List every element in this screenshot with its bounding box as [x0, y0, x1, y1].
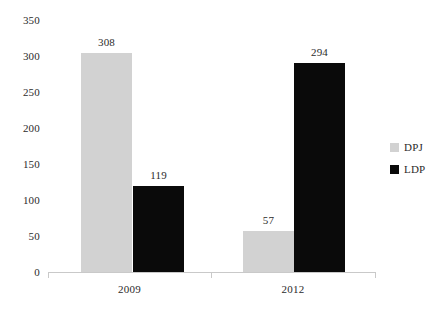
- legend-swatch-icon: [390, 143, 399, 152]
- chart-legend: DPJLDP: [390, 136, 425, 180]
- y-axis-tick-label: 100: [0, 195, 40, 206]
- bar-value-label: 308: [81, 37, 132, 48]
- y-axis-tick-label: 350: [0, 15, 40, 26]
- legend-swatch-icon: [390, 165, 399, 174]
- bar-value-label: 57: [243, 215, 294, 226]
- bar-chart: 350300250200150100500 30811957294 200920…: [0, 0, 439, 310]
- y-axis-tick-label: 300: [0, 51, 40, 62]
- legend-label: DPJ: [404, 142, 423, 153]
- y-axis-tick-label: 0: [0, 267, 40, 278]
- y-axis-tick-label: 250: [0, 87, 40, 98]
- legend-label: LDP: [404, 164, 425, 175]
- x-axis-tick: [375, 272, 376, 278]
- x-axis-category-label: 2012: [211, 283, 375, 295]
- bar-2009-ldp: [133, 186, 184, 272]
- bar-2012-dpj: [243, 231, 294, 272]
- bar-2012-ldp: [294, 63, 345, 272]
- bar-value-label: 294: [294, 47, 345, 58]
- y-axis-tick-label: 150: [0, 159, 40, 170]
- y-axis-tick-label: 200: [0, 123, 40, 134]
- bar-value-label: 119: [133, 170, 184, 181]
- x-axis-category-label: 2009: [48, 283, 211, 295]
- x-axis-tick: [211, 272, 212, 278]
- x-axis-tick: [48, 272, 49, 278]
- legend-item[interactable]: DPJ: [390, 136, 425, 158]
- legend-item[interactable]: LDP: [390, 158, 425, 180]
- y-axis-tick-label: 50: [0, 231, 40, 242]
- bar-2009-dpj: [81, 53, 132, 272]
